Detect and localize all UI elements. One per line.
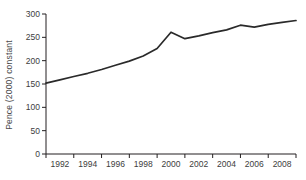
y-tick-label: 200	[26, 56, 40, 66]
y-tick-label: 300	[26, 9, 40, 19]
y-tick-label: 100	[26, 102, 40, 112]
line-chart-figure: Pence (2000) constant 050100150200250300…	[0, 0, 306, 180]
y-tick-label: 150	[26, 79, 40, 89]
y-tick-label: 250	[26, 32, 40, 42]
x-tick-label: 2004	[217, 159, 236, 169]
x-tick-label: 1996	[106, 159, 125, 169]
x-tick-label: 2002	[189, 159, 208, 169]
x-tick-label: 2000	[162, 159, 181, 169]
x-tick-label: 2006	[245, 159, 264, 169]
y-axis-title: Pence (2000) constant	[4, 40, 14, 130]
x-tick-label: 2008	[273, 159, 292, 169]
x-tick-label: 1998	[134, 159, 153, 169]
y-tick-label: 0	[35, 149, 40, 159]
x-tick-label: 1992	[50, 159, 69, 169]
x-tick-label: 1994	[78, 159, 97, 169]
y-tick-label: 50	[31, 126, 41, 136]
data-series-line	[46, 21, 296, 84]
pence-constant-line-chart: 0501001502002503001992199419961998200020…	[0, 0, 306, 180]
